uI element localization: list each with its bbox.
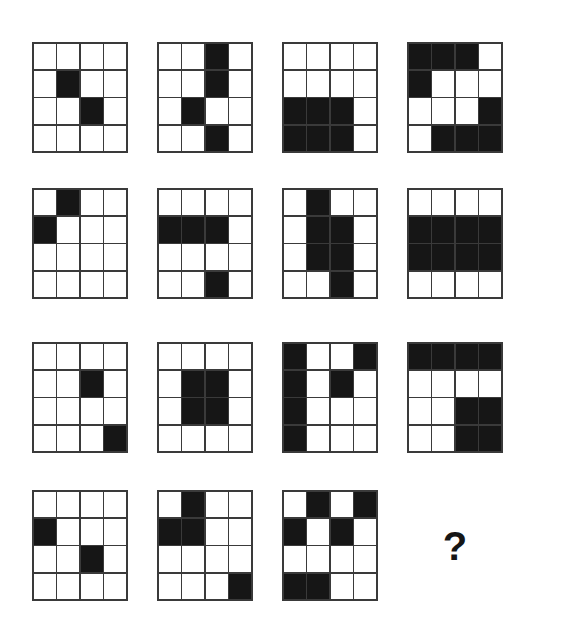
- grid-square-r3c1: [34, 546, 56, 572]
- grid-square-r1c2: [307, 44, 329, 70]
- grid-square-r3c1: [284, 98, 306, 124]
- grid-square-r2c4: [354, 371, 376, 397]
- grid-square-r4c3: [331, 426, 353, 452]
- grid-square-r2c1: [284, 371, 306, 397]
- grid-square-r2c4: [354, 217, 376, 243]
- grid-square-r1c3: [331, 344, 353, 370]
- grid-square-r2c3: [81, 71, 103, 97]
- grid-square-r1c1: [409, 344, 431, 370]
- grid-square-r3c2: [57, 244, 79, 270]
- grid-square-r4c4: [229, 574, 251, 600]
- grid-square-r1c4: [229, 492, 251, 518]
- grid-square-r1c2: [432, 190, 454, 216]
- grid-square-r3c3: [206, 244, 228, 270]
- grid-square-r1c4: [479, 344, 501, 370]
- grid-square-r3c2: [182, 546, 204, 572]
- grid-square-r4c4: [229, 272, 251, 298]
- grid-square-r1c3: [456, 44, 478, 70]
- grid-square-r1c1: [34, 344, 56, 370]
- grid-square-r4c4: [354, 426, 376, 452]
- grid-square-r4c3: [331, 272, 353, 298]
- grid-square-r4c4: [104, 126, 126, 152]
- grid-square-r1c1: [34, 492, 56, 518]
- grid-square-r2c4: [104, 371, 126, 397]
- grid-square-r1c4: [229, 190, 251, 216]
- grid-square-r3c3: [456, 98, 478, 124]
- grid-square-r2c3: [331, 519, 353, 545]
- grid-square-r2c2: [307, 371, 329, 397]
- puzzle-cell-1[interactable]: [32, 42, 128, 153]
- grid-square-r3c2: [57, 546, 79, 572]
- grid-square-r1c4: [104, 44, 126, 70]
- grid-square-r3c4: [104, 244, 126, 270]
- grid-square-r4c1: [284, 426, 306, 452]
- grid-square-r3c1: [159, 546, 181, 572]
- puzzle-cell-12[interactable]: [407, 342, 503, 453]
- puzzle-cell-11[interactable]: [282, 342, 378, 453]
- grid-square-r4c4: [229, 126, 251, 152]
- grid-square-r2c3: [206, 519, 228, 545]
- puzzle-cell-7[interactable]: [282, 188, 378, 299]
- grid-square-r4c2: [307, 426, 329, 452]
- puzzle-cell-6[interactable]: [157, 188, 253, 299]
- grid-square-r3c2: [432, 398, 454, 424]
- puzzle-cell-3[interactable]: [282, 42, 378, 153]
- grid-square-r2c2: [182, 371, 204, 397]
- grid-square-r2c1: [159, 519, 181, 545]
- puzzle-cell-5[interactable]: [32, 188, 128, 299]
- grid-square-r4c3: [456, 126, 478, 152]
- grid-square-r1c2: [432, 44, 454, 70]
- grid-square-r4c3: [81, 126, 103, 152]
- grid-square-r4c3: [206, 126, 228, 152]
- grid-square-r2c3: [81, 217, 103, 243]
- puzzle-cell-10[interactable]: [157, 342, 253, 453]
- grid-square-r1c4: [479, 190, 501, 216]
- grid-square-r4c3: [206, 426, 228, 452]
- puzzle-cell-15[interactable]: [282, 490, 378, 601]
- grid-square-r2c2: [432, 71, 454, 97]
- grid-square-r4c3: [81, 426, 103, 452]
- grid-square-r4c1: [159, 272, 181, 298]
- puzzle-cell-13[interactable]: [32, 490, 128, 601]
- grid-square-r3c4: [104, 398, 126, 424]
- grid-square-r1c3: [331, 44, 353, 70]
- grid-square-r1c4: [354, 44, 376, 70]
- grid-square-r1c1: [409, 190, 431, 216]
- grid-square-r4c2: [182, 272, 204, 298]
- grid-square-r4c2: [57, 126, 79, 152]
- grid-square-r3c4: [104, 98, 126, 124]
- grid-square-r2c1: [409, 371, 431, 397]
- grid-square-r3c4: [479, 98, 501, 124]
- grid-r3c3: [282, 342, 378, 453]
- puzzle-cell-8[interactable]: [407, 188, 503, 299]
- grid-square-r4c4: [104, 272, 126, 298]
- grid-square-r2c3: [456, 71, 478, 97]
- grid-square-r2c3: [206, 71, 228, 97]
- puzzle-cell-14[interactable]: [157, 490, 253, 601]
- grid-square-r3c4: [354, 98, 376, 124]
- grid-square-r1c1: [34, 44, 56, 70]
- grid-square-r3c2: [182, 244, 204, 270]
- puzzle-cell-4[interactable]: [407, 42, 503, 153]
- grid-square-r2c4: [229, 371, 251, 397]
- grid-square-r2c1: [284, 519, 306, 545]
- grid-square-r1c3: [206, 492, 228, 518]
- grid-square-r4c4: [104, 426, 126, 452]
- grid-square-r3c2: [57, 398, 79, 424]
- grid-square-r4c1: [409, 126, 431, 152]
- puzzle-cell-9[interactable]: [32, 342, 128, 453]
- grid-square-r1c1: [284, 492, 306, 518]
- grid-square-r3c3: [81, 98, 103, 124]
- grid-square-r3c2: [307, 244, 329, 270]
- puzzle-cell-2[interactable]: [157, 42, 253, 153]
- grid-square-r1c3: [81, 44, 103, 70]
- answer-placeholder-cell[interactable]: ?: [407, 490, 503, 601]
- grid-square-r3c4: [354, 244, 376, 270]
- grid-square-r4c2: [432, 426, 454, 452]
- grid-square-r3c2: [432, 98, 454, 124]
- grid-square-r4c2: [432, 272, 454, 298]
- grid-square-r1c2: [182, 44, 204, 70]
- grid-square-r2c3: [331, 217, 353, 243]
- grid-square-r1c2: [57, 492, 79, 518]
- grid-square-r3c1: [34, 398, 56, 424]
